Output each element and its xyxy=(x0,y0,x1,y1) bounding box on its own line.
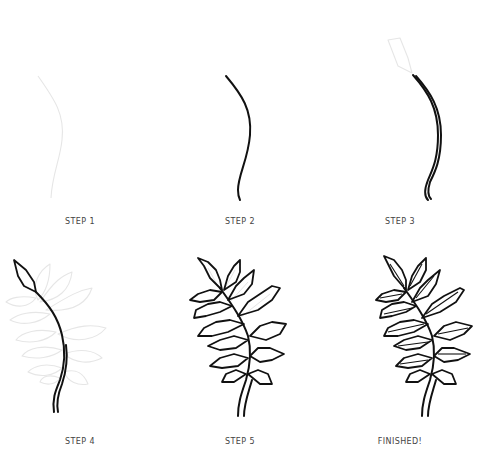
step-2-label: STEP 2 xyxy=(160,217,320,226)
step-4-drawing xyxy=(0,240,160,463)
step-2-panel: STEP 2 xyxy=(160,0,320,240)
step-5-panel: STEP 5 xyxy=(160,240,320,463)
finished-drawing xyxy=(320,240,480,463)
step-5-drawing xyxy=(160,240,320,463)
step-3-label: STEP 3 xyxy=(320,217,480,226)
finished-panel: FINISHED! xyxy=(320,240,480,463)
step-5-label: STEP 5 xyxy=(160,437,320,446)
step-3-panel: STEP 3 xyxy=(320,0,480,240)
step-2-drawing xyxy=(160,0,320,240)
step-4-panel: STEP 4 xyxy=(0,240,160,463)
step-1-label: STEP 1 xyxy=(0,217,160,226)
finished-label: FINISHED! xyxy=(320,437,480,446)
step-1-drawing xyxy=(0,0,160,240)
step-3-drawing xyxy=(320,0,480,240)
step-4-label: STEP 4 xyxy=(0,437,160,446)
step-1-panel: STEP 1 xyxy=(0,0,160,240)
